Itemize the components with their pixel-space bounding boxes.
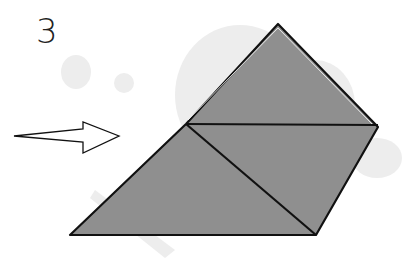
horizontal-crease — [186, 124, 378, 125]
step-number: 3 — [36, 14, 58, 48]
hollow-arrow-icon — [14, 122, 119, 153]
diagram-canvas — [0, 0, 402, 268]
